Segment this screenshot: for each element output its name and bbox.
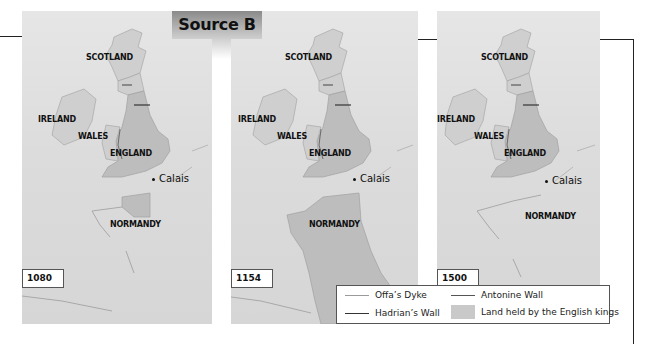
- label-wales: WALES: [78, 132, 108, 141]
- map-panel-1080: SCOTLAND IRELAND WALES ENGLAND Calais NO…: [22, 11, 212, 324]
- label-scotland: SCOTLAND: [481, 53, 528, 62]
- hadrians-wall-line-icon: [345, 313, 369, 314]
- legend-item-offas-dyke: Offa’s Dyke: [345, 290, 427, 300]
- calais-dot-icon: [545, 180, 548, 183]
- source-tab-tail: [212, 39, 231, 59]
- label-normandy: NORMANDY: [110, 220, 161, 229]
- label-wales: WALES: [474, 132, 504, 141]
- source-tab: Source B: [172, 11, 262, 39]
- label-wales: WALES: [277, 132, 307, 141]
- year-badge: 1154: [231, 269, 273, 288]
- label-normandy: NORMANDY: [309, 220, 360, 229]
- label-scotland: SCOTLAND: [86, 53, 133, 62]
- legend-item-hadrians-wall: Hadrian’s Wall: [345, 308, 440, 318]
- label-calais: Calais: [152, 173, 189, 184]
- year-badge: 1080: [22, 269, 64, 288]
- offas-dyke-line-icon: [345, 295, 369, 296]
- label-ireland: IRELAND: [38, 115, 76, 124]
- antonine-wall-line-icon: [451, 295, 475, 296]
- map-panel-1500: SCOTLAND IRELAND WALES ENGLAND Calais NO…: [437, 11, 600, 324]
- label-england: ENGLAND: [110, 149, 152, 158]
- map-legend: Offa’s Dyke Hadrian’s Wall Antonine Wall…: [336, 285, 610, 324]
- calais-dot-icon: [152, 178, 155, 181]
- frame-line-mid: [418, 39, 437, 40]
- map-panel-1154: SCOTLAND IRELAND WALES ENGLAND Calais NO…: [231, 11, 418, 324]
- label-england: ENGLAND: [504, 149, 546, 158]
- legend-item-land-held: Land held by the English kings: [451, 305, 619, 319]
- calais-dot-icon: [353, 178, 356, 181]
- label-normandy: NORMANDY: [525, 212, 576, 221]
- label-calais: Calais: [353, 173, 390, 184]
- label-ireland: IRELAND: [437, 115, 475, 124]
- land-held-swatch-icon: [451, 305, 475, 319]
- frame-line-left: [0, 36, 22, 37]
- frame-line-right-top: [600, 39, 634, 40]
- label-scotland: SCOTLAND: [285, 53, 332, 62]
- label-england: ENGLAND: [309, 149, 351, 158]
- legend-item-antonine-wall: Antonine Wall: [451, 290, 543, 300]
- label-ireland: IRELAND: [238, 115, 276, 124]
- frame-line-right-vertical: [633, 39, 634, 344]
- label-calais: Calais: [545, 175, 582, 186]
